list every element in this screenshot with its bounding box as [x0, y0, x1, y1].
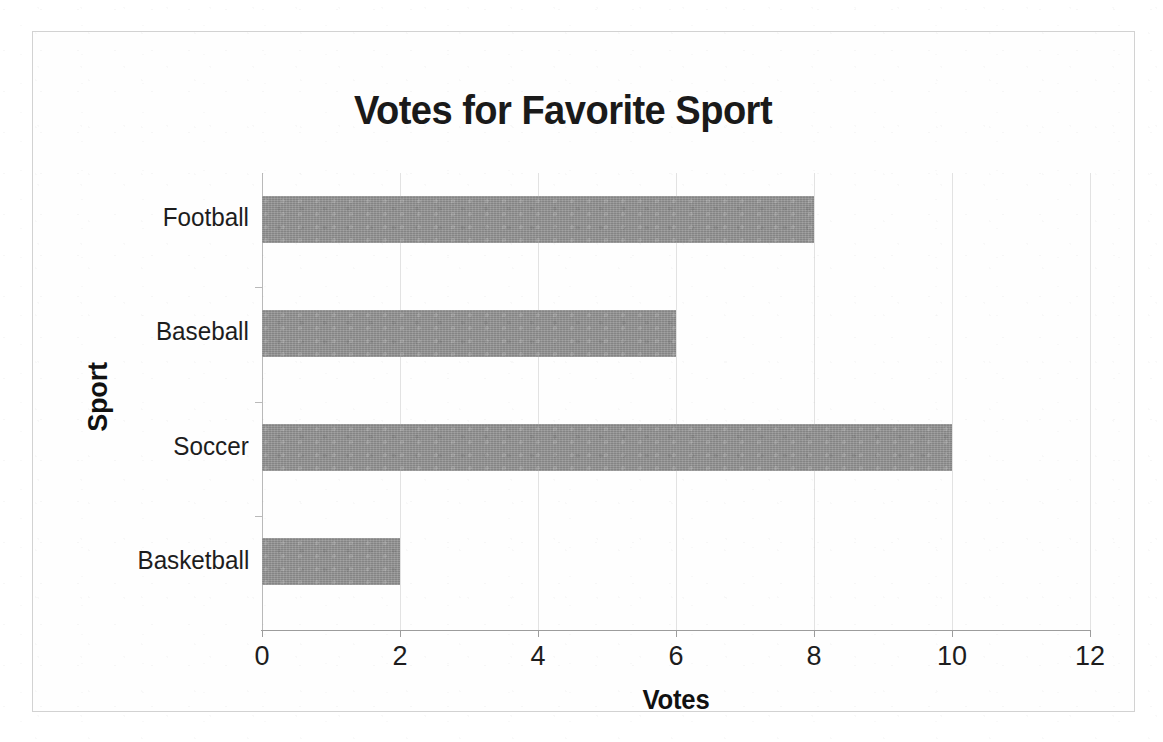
y-tick-2 [255, 402, 262, 403]
x-tick-10 [952, 630, 953, 637]
x-tick-4 [538, 630, 539, 637]
x-tick-2 [400, 630, 401, 637]
x-tick-label-4: 4 [498, 641, 578, 672]
x-tick-label-8: 8 [774, 641, 854, 672]
gridline-x-10 [952, 173, 953, 630]
x-tick-label-6: 6 [636, 641, 716, 672]
y-tick-3 [255, 516, 262, 517]
x-tick-label-2: 2 [360, 641, 440, 672]
bar-football [262, 196, 814, 243]
gridline-x-12 [1090, 173, 1091, 630]
x-tick-8 [814, 630, 815, 637]
x-tick-6 [676, 630, 677, 637]
chart-title: Votes for Favorite Sport [238, 87, 889, 134]
category-label-football: Football [163, 203, 249, 232]
x-tick-0 [262, 630, 263, 637]
x-tick-label-0: 0 [222, 641, 302, 672]
gridline-x-8 [814, 173, 815, 630]
bar-baseball [262, 310, 676, 357]
plot-area [262, 173, 1090, 630]
chart-frame: Votes for Favorite Sport FootballBasebal… [32, 31, 1135, 712]
y-axis-title: Sport [83, 362, 114, 432]
bar-basketball [262, 538, 400, 585]
category-label-soccer: Soccer [174, 432, 249, 461]
category-label-basketball: Basketball [137, 546, 249, 575]
x-tick-12 [1090, 630, 1091, 637]
x-axis-title: Votes [283, 685, 1070, 716]
category-label-baseball: Baseball [156, 317, 249, 346]
x-tick-label-12: 12 [1050, 641, 1130, 672]
bar-soccer [262, 424, 952, 471]
x-tick-label-10: 10 [912, 641, 992, 672]
y-tick-1 [255, 287, 262, 288]
